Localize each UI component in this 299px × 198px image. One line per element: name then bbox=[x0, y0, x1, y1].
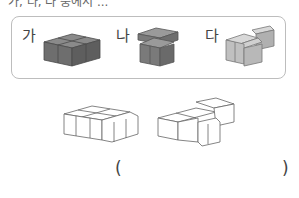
cube-figure-da bbox=[222, 24, 278, 68]
choice-label-da: 다 bbox=[205, 24, 219, 45]
target-shape-left bbox=[62, 100, 142, 146]
question-text-cut: 가, 나, 다 중에서 ... bbox=[8, 0, 108, 9]
answer-close-paren: ) bbox=[282, 158, 289, 178]
choice-label-na: 나 bbox=[116, 24, 130, 45]
answer-open-paren: ( bbox=[115, 158, 122, 178]
choice-label-ga: 가 bbox=[22, 24, 36, 45]
answer-field[interactable] bbox=[128, 160, 278, 180]
cube-figure-na bbox=[134, 22, 184, 70]
cube-figure-ga bbox=[42, 30, 104, 70]
target-shape-right bbox=[156, 96, 240, 148]
